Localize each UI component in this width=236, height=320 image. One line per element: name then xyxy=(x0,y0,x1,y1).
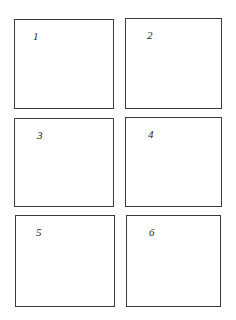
panel-6: 6 xyxy=(126,215,221,307)
panel-number: 1 xyxy=(33,30,39,42)
panel-4: 4 xyxy=(125,117,222,207)
panel-number: 6 xyxy=(149,226,155,238)
panel-number: 3 xyxy=(37,129,43,141)
panel-3: 3 xyxy=(14,118,114,207)
panel-1: 1 xyxy=(14,19,114,109)
panel-number: 2 xyxy=(147,29,153,41)
panel-number: 5 xyxy=(36,226,42,238)
panel-number: 4 xyxy=(148,128,154,140)
panel-5: 5 xyxy=(15,215,115,307)
panel-2: 2 xyxy=(125,18,222,109)
